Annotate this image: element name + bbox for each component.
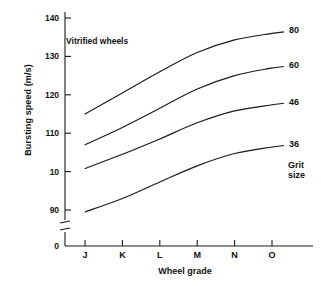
series-label-46: 46: [289, 97, 299, 107]
x-axis-title: Wheel grade: [115, 266, 255, 276]
axes-layer: [60, 12, 313, 246]
series-leader-46: [272, 103, 284, 105]
y-axis-tick-label: 10: [31, 167, 59, 177]
x-axis-tick-label: K: [114, 250, 130, 260]
series-leader-60: [272, 66, 284, 68]
y-axis-tick-label: 140: [31, 13, 59, 23]
y-axis-tick-label: 90: [31, 205, 59, 215]
series-label-36: 36: [289, 139, 299, 149]
series-curve-46: [85, 105, 272, 169]
series-curve-60: [85, 68, 272, 145]
x-axis-tick-label: O: [264, 250, 280, 260]
series-leader-lines: [272, 32, 284, 147]
chart-annotation: Vitrified wheels: [66, 36, 128, 46]
grit-size-caption: Grit size: [288, 160, 305, 180]
axis-break-mark-1: [60, 221, 70, 223]
axis-break-mark-2: [60, 228, 70, 230]
curves-layer: [85, 33, 272, 212]
grit-size-caption-line1: Grit: [288, 160, 305, 170]
series-leader-36: [272, 146, 284, 148]
x-axis-tick-label: N: [227, 250, 243, 260]
y-axis-tick-label: 130: [31, 51, 59, 61]
series-label-80: 80: [289, 25, 299, 35]
x-axis-tick-label: L: [152, 250, 168, 260]
y-axis-tick-label: 0: [31, 241, 59, 251]
x-axis-tick-label: M: [189, 250, 205, 260]
series-label-60: 60: [289, 60, 299, 70]
x-axis-tick-label: J: [77, 250, 93, 260]
series-curve-36: [85, 147, 272, 212]
y-axis-tick-label: 110: [31, 128, 59, 138]
series-leader-80: [272, 32, 284, 34]
grit-size-caption-line2: size: [288, 170, 305, 180]
y-axis-tick-label: 120: [31, 90, 59, 100]
bursting-speed-chart: Bursting speed (m/s) 14013012011010900 J…: [0, 0, 321, 286]
